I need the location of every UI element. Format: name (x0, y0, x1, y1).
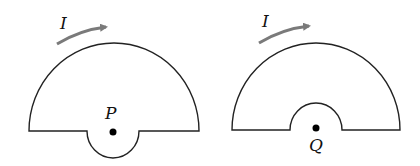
left-wire-loop (29, 43, 199, 158)
point-p (110, 129, 117, 136)
left-current-label: I (59, 13, 67, 33)
right-wire-loop (232, 43, 400, 130)
diagram-svg: I P I Q (0, 0, 420, 166)
point-q-label: Q (309, 135, 323, 155)
right-current-label: I (261, 11, 269, 31)
point-q (313, 125, 320, 132)
point-p-label: P (104, 103, 117, 123)
diagram-canvas: I P I Q (0, 0, 420, 166)
left-figure: I P (29, 13, 199, 158)
right-figure: I Q (232, 11, 400, 155)
